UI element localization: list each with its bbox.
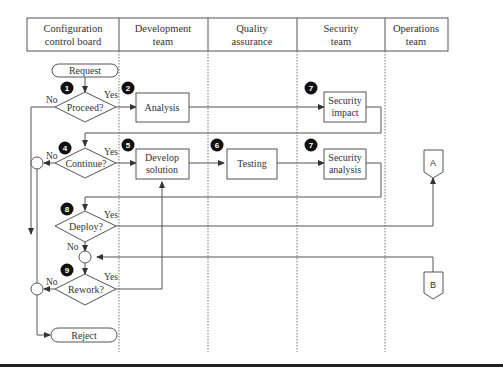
request-label: Request bbox=[69, 65, 101, 76]
reject-label: Reject bbox=[71, 330, 97, 341]
lane-header-ccb-line2: control board bbox=[45, 36, 102, 47]
merge-circle-middle bbox=[79, 251, 91, 263]
rework-label: Rework? bbox=[68, 284, 105, 295]
lane-header-dev-line1: Development bbox=[135, 23, 192, 34]
proceed-decision: Proceed? Yes No bbox=[46, 90, 118, 122]
bottom-rule bbox=[0, 364, 503, 367]
security-analysis-label-line1: Security bbox=[328, 152, 361, 163]
svg-text:1: 1 bbox=[65, 84, 70, 93]
develop-solution-process: Develop solution bbox=[136, 149, 189, 179]
reject-terminator: Reject bbox=[51, 328, 117, 342]
deploy-label: Deploy? bbox=[69, 221, 103, 232]
svg-text:4: 4 bbox=[63, 144, 68, 153]
lane-header-ops-line1: Operations bbox=[393, 23, 439, 34]
lane-header-sec-line2: team bbox=[331, 36, 351, 47]
develop-label-line2: solution bbox=[146, 164, 178, 175]
proceed-label: Proceed? bbox=[67, 102, 104, 113]
security-impact-label-line2: impact bbox=[331, 107, 358, 118]
svg-text:8: 8 bbox=[65, 205, 70, 214]
flowchart-diagram: Configuration control board Development … bbox=[0, 0, 503, 373]
security-analysis-label-line2: analysis bbox=[329, 164, 361, 175]
deploy-yes-label: Yes bbox=[104, 210, 118, 220]
svg-text:9: 9 bbox=[65, 266, 70, 275]
lane-header-qa-line2: assurance bbox=[232, 36, 273, 47]
lane-header: Configuration control board Development … bbox=[27, 18, 448, 51]
rework-yes-label: Yes bbox=[104, 272, 118, 282]
lane-header-ops-line2: team bbox=[406, 36, 426, 47]
lane-header-sec-line1: Security bbox=[324, 23, 360, 34]
deploy-decision: Deploy? Yes No bbox=[55, 210, 118, 252]
continue-label: Continue? bbox=[65, 158, 107, 169]
off-page-connector-a: A bbox=[424, 150, 443, 178]
testing-label: Testing bbox=[237, 158, 266, 169]
lane-header-ccb-line1: Configuration bbox=[44, 23, 104, 34]
lane-header-dev-line2: team bbox=[153, 36, 173, 47]
analysis-label: Analysis bbox=[145, 102, 180, 113]
rework-no-label: No bbox=[46, 277, 58, 287]
continue-decision: Continue? Yes No bbox=[46, 147, 118, 178]
off-page-connector-b: B bbox=[424, 272, 443, 299]
merge-circle-upper bbox=[31, 157, 43, 169]
proceed-yes-label: Yes bbox=[104, 90, 118, 100]
continue-no-label: No bbox=[46, 151, 58, 161]
deploy-no-label: No bbox=[67, 242, 79, 252]
testing-process: Testing bbox=[227, 149, 277, 179]
security-impact-label-line1: Security bbox=[328, 95, 361, 106]
continue-yes-label: Yes bbox=[104, 147, 118, 157]
request-terminator: Request bbox=[52, 64, 118, 77]
security-impact-process: Security impact bbox=[324, 92, 366, 122]
svg-text:2: 2 bbox=[126, 84, 131, 93]
connector-b-label: B bbox=[430, 280, 436, 290]
connector-a-label: A bbox=[430, 158, 436, 168]
develop-label-line1: Develop bbox=[145, 152, 179, 163]
svg-text:5: 5 bbox=[126, 141, 131, 150]
svg-text:7: 7 bbox=[309, 141, 314, 150]
merge-circle-lower bbox=[31, 283, 43, 295]
rework-decision: Rework? Yes No bbox=[46, 272, 118, 305]
security-analysis-process: Security analysis bbox=[324, 149, 366, 179]
analysis-process: Analysis bbox=[136, 93, 189, 122]
svg-text:7: 7 bbox=[309, 84, 314, 93]
lane-header-qa-line1: Quality bbox=[236, 23, 268, 34]
proceed-no-label: No bbox=[46, 95, 58, 105]
svg-text:6: 6 bbox=[215, 141, 220, 150]
